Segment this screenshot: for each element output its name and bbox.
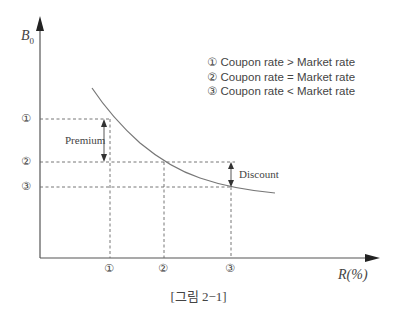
premium-label: Premium [65,135,105,146]
discount-label: Discount [239,169,279,180]
y-level-1: ① [21,113,31,124]
x-tick-2: ② [158,263,168,274]
legend-item-2: ② Coupon rate = Market rate [207,70,355,85]
legend-item-3: ③ Coupon rate < Market rate [207,84,355,99]
legend: ① Coupon rate > Market rate ② Coupon rat… [207,55,355,99]
discount-arrow-up-icon [228,162,234,169]
y-axis-arrow-icon [36,16,44,31]
x-axis-arrow-icon [365,254,380,262]
x-axis-label: R(%) [338,268,368,282]
x-tick-3: ③ [225,263,235,274]
y-axis-label-subscript: 0 [30,36,35,46]
x-tick-1: ① [104,263,114,274]
y-axis-label: B0 [21,29,34,46]
y-level-2: ② [21,156,31,167]
figure-caption: [그림 2−1] [0,290,397,303]
premium-arrow-up-icon [101,119,107,127]
y-level-3: ③ [21,181,31,192]
y-axis-label-text: B [21,28,30,43]
premium-arrow-down-icon [101,154,107,162]
legend-item-1: ① Coupon rate > Market rate [207,55,355,70]
bond-price-yield-diagram: B0 ① ② ③ ① ② ③ R(%) Premium Discount ① C… [0,0,397,331]
